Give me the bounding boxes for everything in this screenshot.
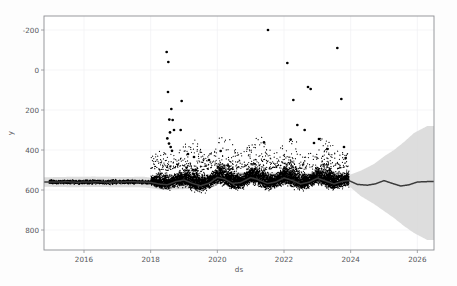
outlier-point xyxy=(168,118,171,121)
y-tick-label: 600 xyxy=(25,186,39,195)
outlier-point xyxy=(296,124,299,127)
outlier-point xyxy=(165,51,168,54)
x-axis-label: ds xyxy=(235,265,244,274)
y-tick-label: 800 xyxy=(25,226,39,235)
outlier-point xyxy=(340,98,343,101)
outlier-point xyxy=(168,142,171,145)
y-axis-label: y xyxy=(6,130,15,135)
outlier-point xyxy=(169,131,172,134)
chart-plot-area: 8006004002000-20020162018202020222024202… xyxy=(0,0,457,286)
outlier-point xyxy=(336,47,339,50)
outlier-point xyxy=(187,153,190,156)
outlier-point xyxy=(263,141,266,144)
outlier-point xyxy=(219,150,222,153)
outlier-point xyxy=(309,88,312,91)
figure-canvas: 8006004002000-20020162018202020222024202… xyxy=(0,0,457,286)
outlier-point xyxy=(318,138,321,141)
outlier-point xyxy=(208,159,211,162)
x-tick-label: 2026 xyxy=(408,255,427,264)
y-tick-label: 200 xyxy=(25,106,39,115)
outlier-point xyxy=(166,137,169,140)
outlier-point xyxy=(286,62,289,65)
outlier-point xyxy=(344,157,347,160)
y-tick-label: 0 xyxy=(34,66,39,75)
outlier-point xyxy=(326,148,329,151)
outlier-point xyxy=(267,29,270,32)
outlier-point xyxy=(289,138,292,141)
outlier-point xyxy=(180,100,183,103)
y-tick-label: 400 xyxy=(25,146,39,155)
outlier-point xyxy=(307,86,310,89)
outlier-point xyxy=(313,142,316,145)
x-tick-label: 2020 xyxy=(208,255,227,264)
outlier-point xyxy=(179,129,182,132)
prophet-forecast-chart: 8006004002000-20020162018202020222024202… xyxy=(0,0,457,286)
outlier-point xyxy=(167,91,170,94)
x-tick-label: 2016 xyxy=(75,255,94,264)
outlier-point xyxy=(343,146,346,149)
outlier-point xyxy=(167,61,170,64)
y-tick-label: -200 xyxy=(23,26,40,35)
x-tick-label: 2018 xyxy=(142,255,161,264)
outlier-point xyxy=(292,99,295,102)
outlier-point xyxy=(303,129,306,132)
outlier-point xyxy=(171,149,174,152)
outlier-point xyxy=(173,129,176,132)
outlier-point xyxy=(193,156,196,159)
x-tick-label: 2022 xyxy=(275,255,293,264)
x-tick-label: 2024 xyxy=(342,255,361,264)
outlier-point xyxy=(169,146,172,149)
outlier-point xyxy=(170,108,173,111)
outlier-point xyxy=(171,119,174,122)
